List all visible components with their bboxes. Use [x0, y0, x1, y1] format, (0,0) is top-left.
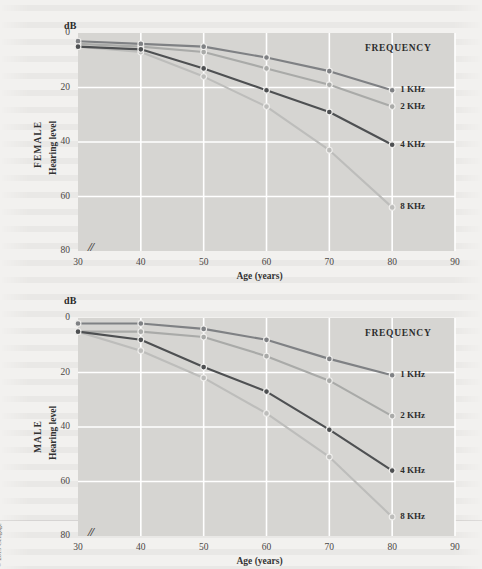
x-tick-male-80: 80 [378, 542, 406, 552]
y-tick-female-40: 40 [42, 136, 70, 146]
x-axis-title-female: Age (years) [237, 271, 283, 281]
x-tick-male-90: 90 [441, 542, 469, 552]
y-tick-male-60: 60 [42, 476, 70, 486]
x-tick-male-50: 50 [190, 542, 218, 552]
legend-label-female-8-khz: 8 KHz [400, 201, 425, 211]
x-tick-female-60: 60 [253, 257, 281, 267]
x-tick-female-50: 50 [190, 257, 218, 267]
chart-svg-male [0, 284, 482, 569]
legend-label-male-8-khz: 8 KHz [400, 511, 425, 521]
y-axis-label-male: Hearing level [48, 406, 58, 460]
y-tick-male-80: 80 [42, 530, 70, 540]
y-axis-unit-male: dB [64, 295, 77, 306]
x-tick-male-70: 70 [315, 542, 343, 552]
x-tick-male-60: 60 [253, 542, 281, 552]
legend-title-female: FREQUENCY [365, 43, 431, 53]
legend-title-male: FREQUENCY [365, 328, 431, 338]
x-tick-male-30: 30 [64, 542, 92, 552]
x-axis-title-male: Age (years) [237, 556, 283, 566]
axis-break-symbol-male: // [88, 524, 93, 540]
y-axis-label-female: Hearing level [48, 121, 58, 175]
y-tick-female-20: 20 [42, 82, 70, 92]
legend-label-female-1-khz: 1 KHz [400, 84, 425, 94]
x-tick-female-30: 30 [64, 257, 92, 267]
x-tick-female-80: 80 [378, 257, 406, 267]
legend-label-male-2-khz: 2 KHz [400, 410, 425, 420]
legend-label-male-4-khz: 4 KHz [400, 465, 425, 475]
y-tick-female-80: 80 [42, 245, 70, 255]
x-tick-male-40: 40 [127, 542, 155, 552]
y-tick-male-20: 20 [42, 367, 70, 377]
axis-break-symbol-female: // [88, 239, 93, 255]
y-tick-male-0: 0 [42, 312, 70, 322]
copyright-notice: © 2019 Cengage [0, 523, 2, 567]
x-tick-female-40: 40 [127, 257, 155, 267]
x-tick-female-90: 90 [441, 257, 469, 267]
y-tick-female-0: 0 [42, 27, 70, 37]
y-tick-female-60: 60 [42, 191, 70, 201]
legend-label-female-2-khz: 2 KHz [400, 101, 425, 111]
legend-label-female-4-khz: 4 KHz [400, 139, 425, 149]
x-tick-female-70: 70 [315, 257, 343, 267]
chart-panel-male: dB Age (years) MALE Hearing level FREQUE… [0, 284, 482, 569]
y-tick-male-40: 40 [42, 421, 70, 431]
legend-label-male-1-khz: 1 KHz [400, 369, 425, 379]
